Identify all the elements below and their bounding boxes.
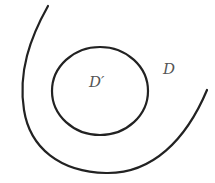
outer-region-label: D (163, 62, 175, 77)
diagram-canvas (0, 0, 215, 183)
outer-region-boundary (22, 6, 207, 173)
inner-region-label: D′ (89, 75, 104, 90)
inner-region-boundary (52, 47, 148, 135)
